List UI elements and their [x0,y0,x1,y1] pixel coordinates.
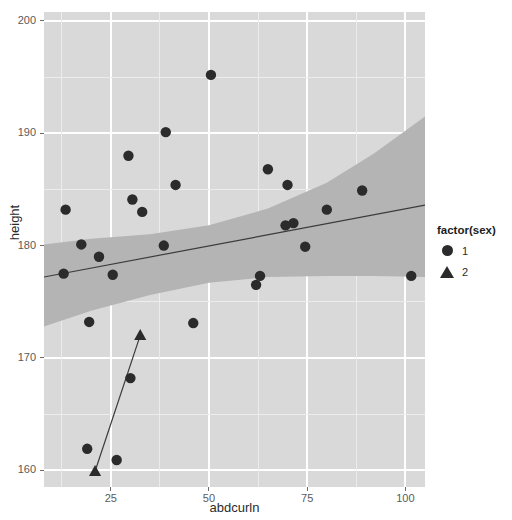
data-point-circle [188,318,198,328]
legend-title: factor(sex) [437,224,512,236]
plot-marks-layer [44,12,425,487]
data-point-circle [137,207,147,217]
data-point-circle [94,252,104,262]
data-point-circle [251,280,261,290]
data-point-circle [125,373,135,383]
data-point-circle [263,164,273,174]
data-point-circle [58,268,68,278]
data-point-circle [111,455,121,465]
fit-line [95,335,140,471]
circle-marker-icon [437,241,457,261]
data-point-circle [84,317,94,327]
data-point-circle [82,444,92,454]
y-axis-tick-mark [40,470,44,471]
y-axis-tick-mark [40,357,44,358]
data-point-circle [406,271,416,281]
triangle-marker-icon [437,262,457,282]
data-point-circle [161,127,171,137]
data-point-circle [108,270,118,280]
data-point-circle [282,180,292,190]
data-point-circle [60,204,70,214]
confidence-ribbon [44,116,425,326]
data-point-circle [322,204,332,214]
y-axis-tick-mark [40,245,44,246]
data-point-triangle [134,329,146,340]
y-axis-tick-label: 170 [6,352,36,363]
legend-items: 12 [437,240,512,282]
data-point-triangle [89,465,101,476]
data-point-circle [127,194,137,204]
legend-item-label: 1 [462,245,468,257]
x-axis-tick-mark [208,487,209,491]
legend-item[interactable]: 2 [437,261,512,282]
legend-key-shape [442,245,453,256]
data-point-circle [288,218,298,228]
x-axis-tick-mark [405,487,406,491]
legend-item-label: 2 [462,266,468,278]
data-point-circle [170,180,180,190]
plot-panel [44,12,425,487]
data-point-circle [159,240,169,250]
x-axis-tick-mark [110,487,111,491]
data-point-circle [300,241,310,251]
y-axis-title: height [7,193,22,253]
data-point-circle [76,239,86,249]
y-axis-tick-label: 190 [6,127,36,138]
y-axis-tick-label: 160 [6,464,36,475]
legend-item[interactable]: 1 [437,240,512,261]
x-axis-tick-mark [307,487,308,491]
confidence-ribbon-layer [44,116,425,326]
x-axis-title: abdcurln [44,500,425,515]
data-point-circle [206,70,216,80]
legend-key-shape [440,266,454,278]
chart-root: 200190180170160255075100 height abdcurln… [0,0,512,520]
legend: factor(sex) 12 [437,224,512,282]
y-axis-tick-mark [40,20,44,21]
data-point-circle [357,185,367,195]
data-point-circle [255,271,265,281]
y-axis-tick-label: 200 [6,15,36,26]
data-point-circle [123,151,133,161]
y-axis-tick-mark [40,133,44,134]
